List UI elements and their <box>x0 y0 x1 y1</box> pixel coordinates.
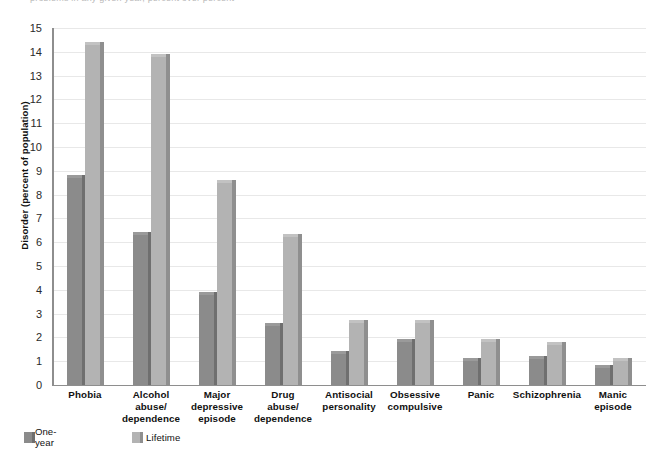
bar-side-face <box>232 183 236 385</box>
x-axis-label: Manicepisode <box>572 389 651 413</box>
bar-lifetime[interactable] <box>481 342 496 385</box>
bar-front-face <box>613 361 628 385</box>
bar-front-face <box>67 178 82 385</box>
bar-front-face <box>349 323 364 385</box>
y-axis-tick-label: 10 <box>30 142 42 153</box>
y-axis-tick-label: 9 <box>36 165 42 176</box>
legend-label-one-year: One-year <box>35 426 60 448</box>
bar-side-face <box>298 237 302 385</box>
bar-lifetime[interactable] <box>283 237 298 385</box>
bar-lifetime[interactable] <box>349 323 364 385</box>
bar-front-face <box>151 57 166 385</box>
legend-swatch-face <box>24 432 32 443</box>
bar-group <box>397 28 434 385</box>
y-axis-tick-label: 3 <box>36 308 42 319</box>
bar-group <box>265 28 302 385</box>
legend-swatch-one-year <box>24 432 29 443</box>
bar-side-face <box>562 345 566 385</box>
bar-front-face <box>595 368 610 385</box>
y-axis-tick-label: 1 <box>36 356 42 367</box>
y-axis-tick-label: 11 <box>31 118 42 129</box>
bar-front-face <box>133 235 148 385</box>
bar-one-year[interactable] <box>595 368 610 385</box>
bar-front-face <box>529 359 544 385</box>
bar-one-year[interactable] <box>331 354 346 385</box>
y-axis-tick-label: 14 <box>30 46 42 57</box>
bar-lifetime[interactable] <box>547 345 562 385</box>
x-axis-line <box>52 385 646 386</box>
bar-front-face <box>199 295 214 385</box>
bar-lifetime[interactable] <box>415 323 430 385</box>
bar-front-face <box>481 342 496 385</box>
y-axis-tick-label: 5 <box>36 261 42 272</box>
bar-side-face <box>430 323 434 385</box>
bar-front-face <box>463 361 478 385</box>
bar-one-year[interactable] <box>199 295 214 385</box>
y-axis-tick-label: 2 <box>36 332 42 343</box>
bar-group <box>331 28 368 385</box>
bar-lifetime[interactable] <box>151 57 166 385</box>
y-axis-tick-label: 0 <box>36 380 42 391</box>
bar-lifetime[interactable] <box>217 183 232 385</box>
plot-area <box>52 28 646 385</box>
bar-front-face <box>265 326 280 386</box>
bar-front-face <box>331 354 346 385</box>
bar-one-year[interactable] <box>463 361 478 385</box>
legend-swatch-side <box>140 432 143 443</box>
y-axis-tick-label: 6 <box>36 237 42 248</box>
bar-side-face <box>628 361 632 385</box>
x-axis-label-line: compulsive <box>374 401 456 413</box>
bar-group <box>133 28 170 385</box>
legend-swatch-face <box>132 432 140 443</box>
bars-layer <box>52 28 646 385</box>
legend-swatch-side <box>32 432 35 443</box>
bar-one-year[interactable] <box>133 235 148 385</box>
x-axis-label-line: episode <box>572 401 651 413</box>
bar-one-year[interactable] <box>67 178 82 385</box>
bar-group <box>463 28 500 385</box>
y-axis-tick-label: 13 <box>30 70 42 81</box>
legend-item-one-year[interactable]: One-year <box>24 430 60 444</box>
y-axis-tick-label: 8 <box>36 189 42 200</box>
bar-group <box>529 28 566 385</box>
bar-one-year[interactable] <box>529 359 544 385</box>
bar-front-face <box>85 45 100 385</box>
bar-group <box>595 28 632 385</box>
x-axis-label-line: dependence <box>242 413 324 425</box>
bar-front-face <box>415 323 430 385</box>
bar-side-face <box>100 45 104 385</box>
bar-front-face <box>547 345 562 385</box>
bar-chart-figure: Disorder (percent of population) 1514131… <box>0 0 651 450</box>
y-axis-tick-label: 12 <box>30 94 42 105</box>
bar-front-face <box>397 342 412 385</box>
bar-side-face <box>364 323 368 385</box>
bar-group <box>199 28 236 385</box>
bar-one-year[interactable] <box>265 326 280 386</box>
bar-front-face <box>283 237 298 385</box>
bar-front-face <box>217 183 232 385</box>
bar-lifetime[interactable] <box>613 361 628 385</box>
bar-side-face <box>496 342 500 385</box>
y-axis-tick-labels: 1514131211109876543210 <box>0 28 48 386</box>
x-axis-label-line: Manic <box>572 389 651 401</box>
legend-item-lifetime[interactable]: Lifetime <box>132 430 180 444</box>
bar-group <box>67 28 104 385</box>
legend-swatch-lifetime <box>132 432 140 443</box>
y-axis-tick-label: 7 <box>36 213 42 224</box>
bar-side-face <box>166 57 170 385</box>
bar-one-year[interactable] <box>397 342 412 385</box>
y-axis-tick-label: 4 <box>36 284 42 295</box>
y-axis-tick-label: 15 <box>30 23 42 34</box>
bar-lifetime[interactable] <box>85 45 100 385</box>
legend-label-lifetime: Lifetime <box>146 432 180 443</box>
